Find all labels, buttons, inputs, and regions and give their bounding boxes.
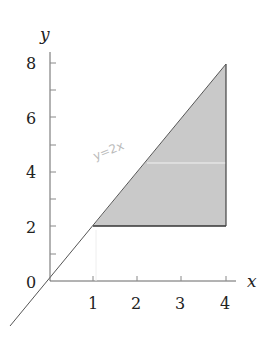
- y-tick-label-8: 8: [26, 54, 36, 73]
- x-tick-label-1: 1: [88, 294, 98, 313]
- x-tick-label-3: 3: [175, 294, 185, 313]
- origin-label: 0: [26, 273, 36, 292]
- x-axis-label: x: [247, 271, 257, 291]
- x-tick-label-4: 4: [220, 294, 230, 313]
- handwritten-annotation: y=2x: [91, 138, 126, 163]
- y-tick-label-2: 2: [26, 218, 36, 237]
- diagram-canvas: y x 8 6 4 2 0 1 2 3 4 y=2x: [0, 0, 271, 337]
- y-tick-label-6: 6: [26, 109, 36, 128]
- y-tick-label-4: 4: [26, 163, 36, 182]
- y-ticks: [50, 63, 56, 254]
- x-ticks: [93, 276, 226, 281]
- y-axis-label: y: [39, 24, 50, 44]
- x-tick-label-2: 2: [131, 294, 141, 313]
